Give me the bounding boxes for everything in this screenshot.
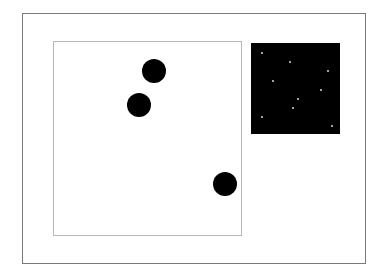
star-dot <box>292 107 294 109</box>
star-dot <box>297 98 299 100</box>
star-dot <box>272 80 274 82</box>
star-dot <box>331 125 333 127</box>
black-disc <box>213 172 237 196</box>
star-dot <box>320 89 322 91</box>
star-dot <box>261 116 263 118</box>
star-dot <box>261 52 263 54</box>
black-disc <box>127 93 151 117</box>
star-dot <box>289 61 291 63</box>
star-dot <box>327 70 329 72</box>
stimulus-canvas <box>0 0 386 276</box>
black-disc <box>142 59 166 83</box>
starfield-panel <box>251 43 340 134</box>
